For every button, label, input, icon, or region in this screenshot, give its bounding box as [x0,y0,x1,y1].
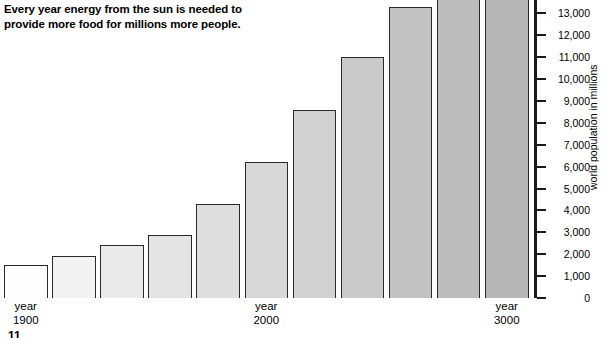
y-axis-tick-label: 12,000 [546,29,590,41]
y-axis-tick-label: 11,000 [546,51,590,63]
x-axis-label-line-1: year [0,300,61,314]
bar [100,245,144,298]
y-axis-tick-label: 0 [546,292,590,304]
page-number: 11 [8,330,21,338]
y-axis-tick-label: 7,000 [546,139,590,151]
y-axis-tick-label: 6,000 [546,161,590,173]
x-axis-label-line-2: 1900 [0,314,61,328]
x-axis-label-line-2: 3000 [472,314,542,328]
bar [245,162,289,298]
y-axis-tick-label: 1,000 [546,270,590,282]
y-axis-tick [537,122,546,124]
y-axis-tick [537,34,546,36]
y-axis-tick-label: 4,000 [546,204,590,216]
y-axis-tick [537,209,546,211]
bar [293,110,337,298]
y-axis-tick-label: 13,000 [546,7,590,19]
y-axis-tick-label: 2,000 [546,248,590,260]
bar [4,265,48,298]
y-axis-tick-label: 5,000 [546,183,590,195]
x-axis-label: year1900 [0,300,61,327]
y-axis-tick-label: 8,000 [546,117,590,129]
x-axis-label-line-1: year [231,300,301,314]
y-axis-tick-label: 3,000 [546,226,590,238]
y-axis-tick [537,78,546,80]
y-axis-tick [537,231,546,233]
x-axis-label-line-2: 2000 [231,314,301,328]
y-axis-tick [537,253,546,255]
bar-chart-plot-area [0,0,536,298]
bar [341,57,385,298]
bar [196,204,240,298]
y-axis-tick [537,56,546,58]
y-axis-tick [537,188,546,190]
y-axis-tick [537,297,546,299]
y-axis-tick [537,166,546,168]
x-axis-label: year3000 [472,300,542,327]
x-axis-label-line-1: year [472,300,542,314]
bar [389,7,433,298]
bar [148,235,192,299]
y-axis-tick [537,144,546,146]
chart-page: Every year energy from the sun is needed… [0,0,604,338]
y-axis-tick [537,12,546,14]
y-axis-tick-label: 10,000 [546,73,590,85]
x-axis-label: year2000 [231,300,301,327]
y-axis-title: world population in millions [586,18,600,236]
y-axis-tick [537,100,546,102]
bar [485,0,529,298]
y-axis-tick-label: 9,000 [546,95,590,107]
bar [52,256,96,298]
bar [437,0,481,298]
y-axis-tick [537,275,546,277]
